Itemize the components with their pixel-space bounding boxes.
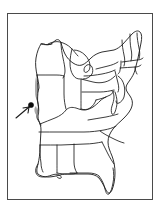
map-frame xyxy=(7,13,153,200)
location-marker-dot xyxy=(28,102,33,107)
connecticut-rhode-island-border xyxy=(135,67,137,74)
arrow-shaft xyxy=(16,107,29,118)
figure-root: Map of the Eastern United States Black a… xyxy=(0,0,162,213)
eastern-us-landmass xyxy=(36,31,142,193)
eastern-us-map xyxy=(8,14,154,201)
landmass-outline xyxy=(36,31,142,193)
location-annotation xyxy=(16,102,34,118)
wisconsin-north-border xyxy=(41,44,52,45)
